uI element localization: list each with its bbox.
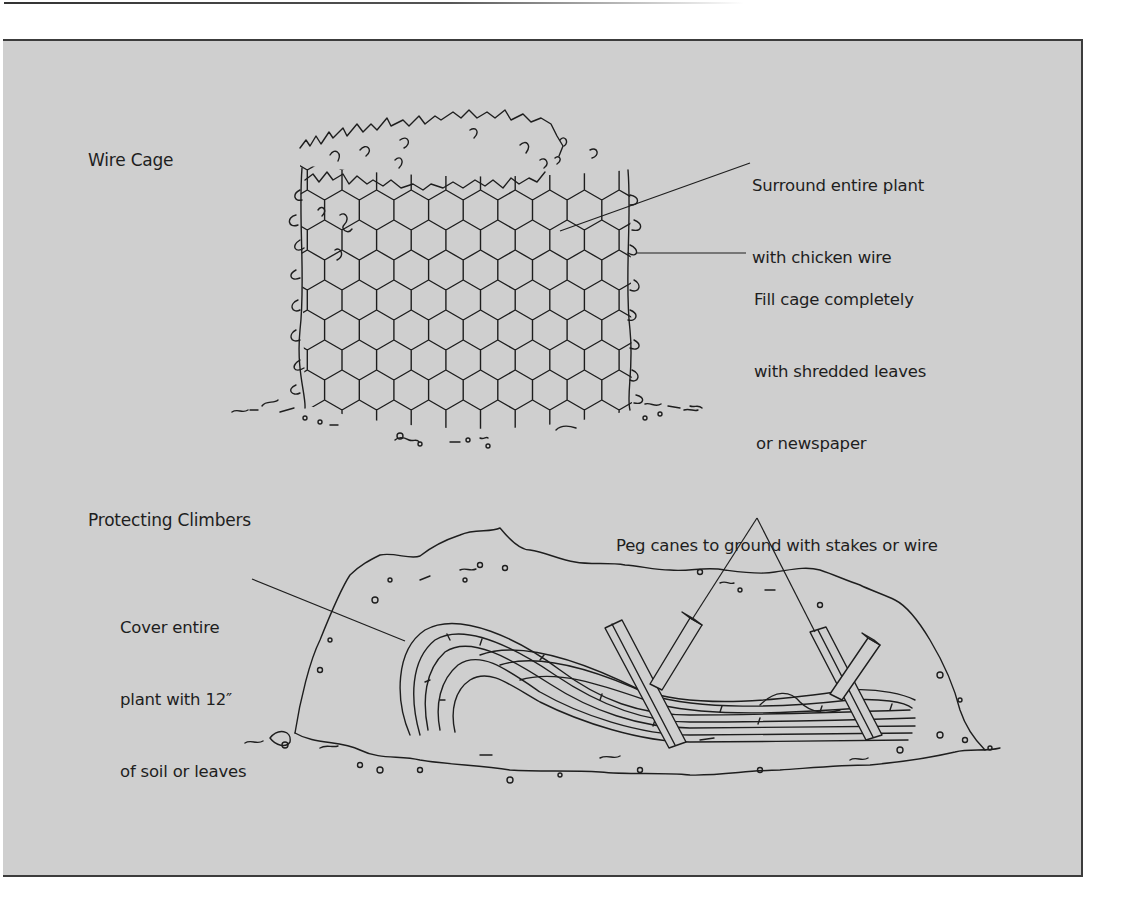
callout-line: of soil or leaves (120, 760, 246, 784)
callout-line: Peg canes to ground with stakes or wire (616, 534, 938, 558)
callout-line: with shredded leaves (754, 360, 926, 384)
wire-cage-illustration (232, 110, 706, 530)
stake-left-front (605, 620, 686, 748)
leader-line-cover (252, 579, 405, 641)
stake-left-back (650, 618, 702, 690)
callout-fill-cage: Fill cage completely with shredded leave… (754, 240, 926, 480)
callout-line: Fill cage completely (754, 288, 926, 312)
callout-line: or newspaper (754, 432, 926, 456)
ground-debris (232, 400, 702, 442)
hex-wire-cells (273, 160, 706, 530)
leader-line-surround (560, 163, 750, 231)
section-title-wire-cage: Wire Cage (88, 148, 173, 172)
foliage-inner-rim (305, 172, 545, 190)
callout-peg-canes: Peg canes to ground with stakes or wire (616, 486, 938, 582)
callout-cover-plant: Cover entire plant with 12″ of soil or l… (120, 568, 246, 808)
soil-mound-base (295, 733, 1000, 775)
section-title-protecting-climbers: Protecting Climbers (88, 508, 251, 532)
callout-line: Cover entire (120, 616, 246, 640)
callout-line: Surround entire plant (752, 174, 924, 198)
foliage-top-rim (300, 110, 563, 156)
chicken-wire-mesh (273, 160, 706, 530)
callout-line: plant with 12″ (120, 688, 246, 712)
